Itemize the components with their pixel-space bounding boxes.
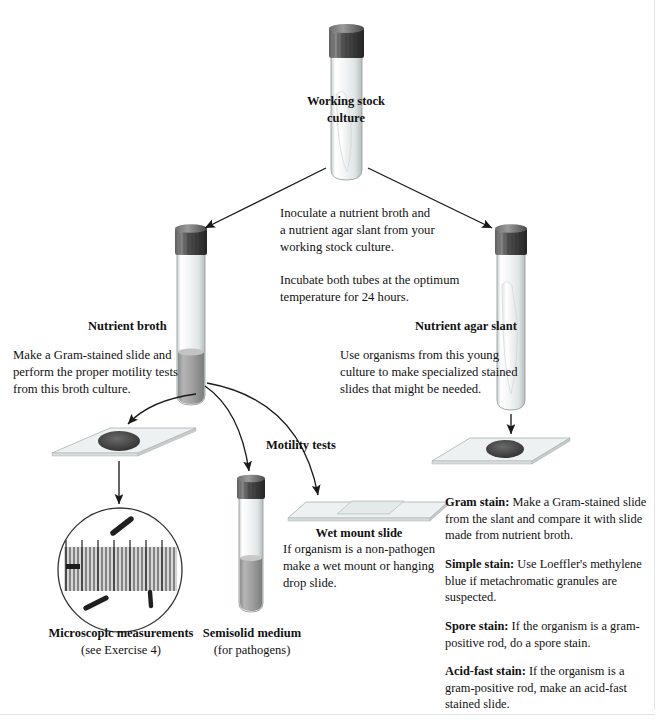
arrow-broth-to-semisolid bbox=[205, 386, 249, 471]
stain-name-simple: Simple stain: bbox=[445, 557, 514, 571]
label-microscopic-measurements: Microscopic measurements (see Exercise 4… bbox=[28, 625, 214, 658]
label-wet-mount-slide: Wet mount slide bbox=[288, 525, 430, 542]
label-working-stock-culture: Working stock culture bbox=[246, 93, 446, 126]
stain-block-acid-fast: Acid-fast stain: If the organism is a gr… bbox=[445, 663, 652, 713]
stain-block-simple: Simple stain: Use Loeffler's methylene b… bbox=[445, 556, 652, 606]
stained-slide-right-graphic bbox=[432, 438, 570, 464]
label-motility-tests: Motility tests bbox=[266, 437, 386, 454]
diagram-canvas: Working stock culture Inoculate a nutrie… bbox=[0, 0, 661, 722]
text-broth-use-instruction: Make a Gram-stained slide and perform th… bbox=[13, 347, 193, 398]
stain-name-acid-fast: Acid-fast stain: bbox=[445, 664, 526, 678]
semisolid-tube-graphic bbox=[237, 475, 265, 612]
stain-name-spore: Spore stain: bbox=[445, 619, 508, 633]
text-slant-use-instruction: Use organisms from this young culture to… bbox=[340, 347, 540, 398]
stain-name-gram: Gram stain: bbox=[445, 495, 509, 509]
label-nutrient-broth: Nutrient broth bbox=[88, 318, 238, 335]
text-wet-mount-instruction: If organism is a non-pathogen make a wet… bbox=[283, 541, 443, 592]
wet-mount-slide-graphic bbox=[288, 501, 448, 521]
stain-block-spore: Spore stain: If the organism is a gram- … bbox=[445, 618, 652, 651]
stained-slide-left-graphic bbox=[52, 428, 196, 456]
text-incubate-instruction: Incubate both tubes at the optimum tempe… bbox=[280, 272, 510, 306]
label-nutrient-agar-slant: Nutrient agar slant bbox=[415, 318, 590, 335]
stain-block-gram: Gram stain: Make a Gram-stained slide fr… bbox=[445, 494, 652, 544]
microscope-field-graphic bbox=[58, 508, 182, 632]
text-inoculate-instruction: Inoculate a nutrient broth and a nutrien… bbox=[280, 205, 495, 256]
